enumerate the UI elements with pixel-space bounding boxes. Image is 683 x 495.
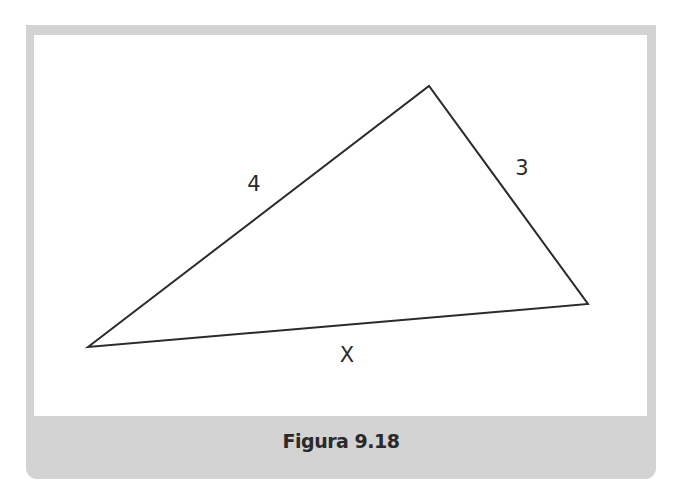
side-label-left-top: 4 — [247, 174, 260, 195]
side-label-bottom: X — [340, 345, 354, 366]
triangle — [88, 86, 588, 347]
figure-frame: 4 3 X Figura 9.18 — [26, 25, 656, 479]
side-label-top-right: 3 — [515, 158, 528, 179]
figure-caption: Figura 9.18 — [26, 430, 656, 452]
